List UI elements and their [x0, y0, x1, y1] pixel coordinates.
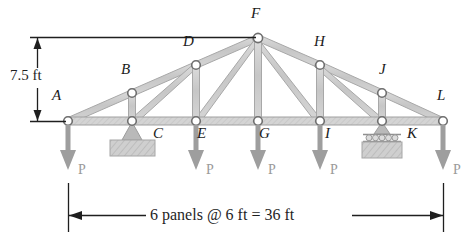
- node-label-K: K: [407, 126, 417, 141]
- support-roller-K: [362, 122, 402, 158]
- joint-L: [439, 117, 448, 126]
- load-label-G: P: [268, 163, 276, 177]
- load-label-I: P: [330, 163, 338, 177]
- roller-ground-block: [362, 142, 402, 158]
- joint-E: [192, 117, 201, 126]
- span-arrow-left: [69, 211, 82, 220]
- load-label-L: P: [453, 163, 461, 177]
- joint-I: [316, 117, 325, 126]
- member-H-I: [317, 65, 324, 122]
- pin-ground-block: [110, 140, 155, 156]
- load-arrow-A: [60, 125, 76, 170]
- node-label-L: L: [437, 88, 445, 103]
- node-label-G: G: [259, 126, 270, 141]
- node-label-A: A: [52, 88, 61, 103]
- load-label-E: P: [206, 163, 214, 177]
- truss-figure: A B C D E F G H I J K L P P P P P 7.5 ft…: [0, 0, 475, 242]
- joint-C: [128, 117, 137, 126]
- joint-D: [192, 61, 201, 70]
- height-arrow-up: [34, 38, 42, 49]
- span-arrow-right: [430, 211, 443, 220]
- node-label-I: I: [325, 126, 330, 141]
- load-label-A: P: [78, 163, 86, 177]
- joint-B: [128, 89, 137, 98]
- roller-wheels: [366, 135, 398, 141]
- truss-members: [68, 35, 443, 126]
- node-label-J: J: [379, 62, 386, 77]
- dimension-label-height: 7.5 ft: [10, 68, 42, 83]
- joint-H: [316, 61, 325, 70]
- height-arrow-down: [34, 110, 42, 121]
- member-F-G: [255, 38, 262, 122]
- node-label-F: F: [251, 6, 260, 21]
- node-label-B: B: [121, 62, 130, 77]
- node-label-D: D: [183, 34, 194, 49]
- member-D-E: [193, 65, 200, 122]
- member-H-K: [314, 62, 382, 124]
- dimension-label-span: 6 panels @ 6 ft = 36 ft: [150, 207, 294, 223]
- joint-G: [254, 117, 263, 126]
- node-label-H: H: [314, 34, 325, 49]
- support-pin-C: [110, 122, 155, 156]
- joint-J: [378, 89, 387, 98]
- node-label-E: E: [197, 126, 206, 141]
- node-label-C: C: [153, 126, 163, 141]
- load-arrow-L: [435, 125, 451, 170]
- member-C-D: [132, 62, 199, 124]
- joint-K: [378, 117, 387, 126]
